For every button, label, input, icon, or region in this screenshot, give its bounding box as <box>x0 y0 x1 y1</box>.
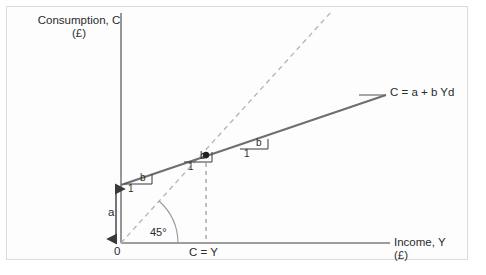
origin-label: 0 <box>114 245 120 258</box>
slope-rise-label-1: b <box>140 172 146 184</box>
consumption-function-label: C = a + b Yd <box>390 86 454 99</box>
angle-label: 45° <box>150 226 167 239</box>
slope-rise-label-3: b <box>256 137 262 149</box>
equilibrium-label: C = Y <box>189 246 218 259</box>
y-axis-label-line2: (£) <box>72 27 86 39</box>
y-axis-label-line1: Consumption, C <box>38 14 120 26</box>
forty-five-degree-line <box>121 11 332 243</box>
x-axis-label: Income, Y(£) <box>394 236 472 262</box>
chart-canvas <box>0 0 486 275</box>
intercept-label: a <box>108 206 114 219</box>
consumption-function-diagram: Consumption, C(£) Income, Y(£) 0 45° C =… <box>0 0 486 275</box>
slope-run-label-1: 1 <box>128 183 134 195</box>
x-axis-label-line2: (£) <box>394 249 408 261</box>
slope-rise-label-2: b <box>200 150 206 162</box>
slope-run-label-2: 1 <box>188 161 194 173</box>
y-axis-label: Consumption, C(£) <box>36 14 122 40</box>
slope-run-label-3: 1 <box>244 148 250 160</box>
consumption-function-line <box>121 95 386 185</box>
x-axis-label-line1: Income, Y <box>394 236 446 248</box>
